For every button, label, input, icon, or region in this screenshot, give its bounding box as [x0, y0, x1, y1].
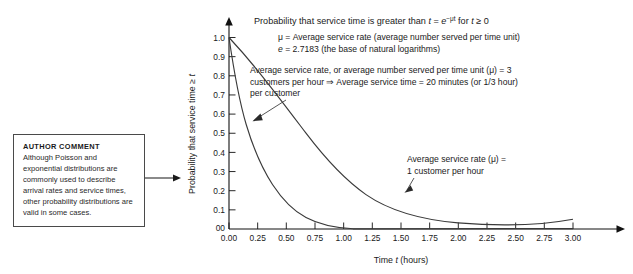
x-tick-label: 0.50 [278, 233, 295, 243]
y-axis-ticks [229, 38, 236, 210]
x-axis-tick-labels: 0.00 0.25 0.50 0.75 1.00 1.25 1.50 1.75 … [221, 233, 582, 243]
y-axis [225, 17, 233, 229]
y-tick-label: 1.0 [213, 33, 225, 43]
x-tick-label: 1.25 [364, 233, 381, 243]
callout-line-1: Average service rate (μ) = [407, 154, 506, 164]
y-tick-label: 0.4 [213, 148, 225, 158]
y-tick-label: 0.3 [213, 167, 225, 177]
x-axis-ticks [229, 223, 573, 230]
y-tick-label: 0.8 [213, 71, 225, 81]
y-tick-label: 0.9 [213, 52, 225, 62]
note-line-1: Average service rate, or average number … [250, 65, 512, 75]
y-tick-label: 0.1 [213, 205, 225, 215]
figure-root: AUTHOR COMMENT Although Poisson and expo… [0, 0, 633, 274]
x-tick-label: 2.00 [450, 233, 467, 243]
author-comment-title: AUTHOR COMMENT [23, 142, 136, 151]
note-line-2: customers per hour ⇒ Average service tim… [250, 77, 518, 87]
x-tick-label: 0.25 [250, 233, 267, 243]
exponential-distribution-chart: Probability that service time is greater… [178, 4, 633, 274]
x-tick-label: 1.00 [336, 233, 353, 243]
x-tick-label: 1.50 [393, 233, 410, 243]
y-tick-label: 0.6 [213, 109, 225, 119]
y-tick-label: 0.2 [213, 186, 225, 196]
y-tick-label: 00 [216, 223, 226, 233]
x-axis-title: Time t (hours) [374, 255, 429, 265]
x-tick-label: 3.00 [565, 233, 582, 243]
chart-title: Probability that service time is greater… [254, 15, 489, 26]
y-axis-tick-labels: 1.0 0.9 0.8 0.7 0.6 0.5 0.4 0.3 0.2 0.1 … [213, 33, 225, 234]
leader-mu1 [404, 178, 414, 193]
author-comment-connector-arrow [145, 174, 181, 182]
leader-mu3 [253, 100, 287, 121]
y-axis-title: Probability that service time ≥ t [187, 74, 197, 194]
y-tick-label: 0.7 [213, 90, 225, 100]
author-comment-box: AUTHOR COMMENT Although Poisson and expo… [13, 134, 145, 227]
x-tick-label: 2.25 [479, 233, 496, 243]
author-comment-body: Although Poisson and exponential distrib… [23, 153, 136, 218]
y-tick-label: 0.5 [213, 128, 225, 138]
callout-line-2: 1 customer per hour [407, 166, 484, 176]
x-tick-label: 2.75 [536, 233, 553, 243]
x-tick-label: 0.75 [307, 233, 324, 243]
x-tick-label: 0.00 [221, 233, 238, 243]
definition-line-e: e = 2.7183 (the base of natural logarith… [278, 44, 440, 54]
x-tick-label: 1.75 [422, 233, 439, 243]
x-tick-label: 2.50 [508, 233, 525, 243]
definition-line-mu: μ = Average service rate (average number… [278, 32, 520, 42]
